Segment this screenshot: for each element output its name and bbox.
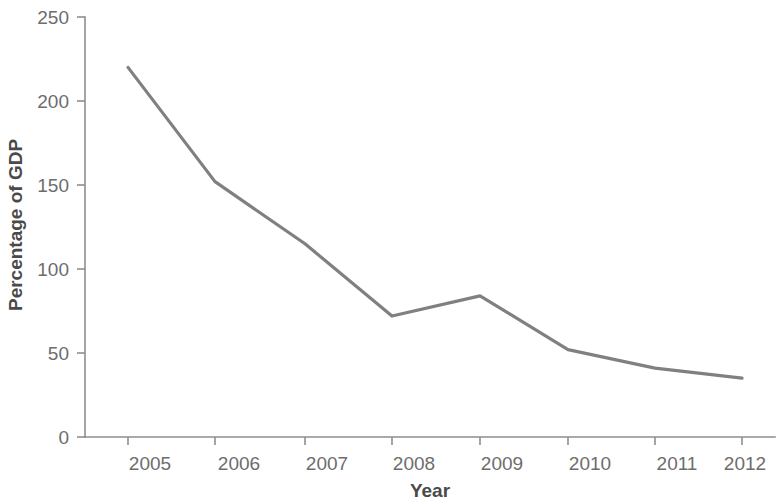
y-tick-label-200: 200: [37, 91, 69, 112]
line-chart-figure: 250 200 150 100 50 0 Percentage of GDP 2…: [0, 0, 780, 501]
x-tick-label-2007: 2007: [306, 453, 348, 474]
x-tick-marks: [128, 437, 742, 445]
x-axis-title: Year: [410, 480, 451, 501]
y-tick-label-50: 50: [48, 343, 69, 364]
y-tick-marks: [77, 17, 85, 437]
x-axis-group: 2005 2006 2007 2008 2009 2010 2011 2012 …: [85, 437, 775, 501]
y-tick-label-0: 0: [58, 427, 69, 448]
x-tick-label-2012: 2012: [724, 453, 766, 474]
y-tick-label-100: 100: [37, 259, 69, 280]
y-tick-label-150: 150: [37, 175, 69, 196]
x-tick-label-2009: 2009: [481, 453, 523, 474]
series-group: [128, 67, 742, 378]
data-line-percentage-of-gdp: [128, 67, 742, 378]
x-tick-label-2011: 2011: [657, 453, 698, 474]
x-tick-label-2008: 2008: [393, 453, 435, 474]
x-tick-label-2005: 2005: [129, 453, 171, 474]
x-tick-label-2010: 2010: [569, 453, 611, 474]
y-axis-title: Percentage of GDP: [5, 139, 26, 311]
x-tick-label-2006: 2006: [218, 453, 260, 474]
y-axis-group: 250 200 150 100 50 0 Percentage of GDP: [5, 7, 85, 448]
y-tick-label-250: 250: [37, 7, 69, 28]
chart-canvas: 250 200 150 100 50 0 Percentage of GDP 2…: [0, 0, 780, 501]
